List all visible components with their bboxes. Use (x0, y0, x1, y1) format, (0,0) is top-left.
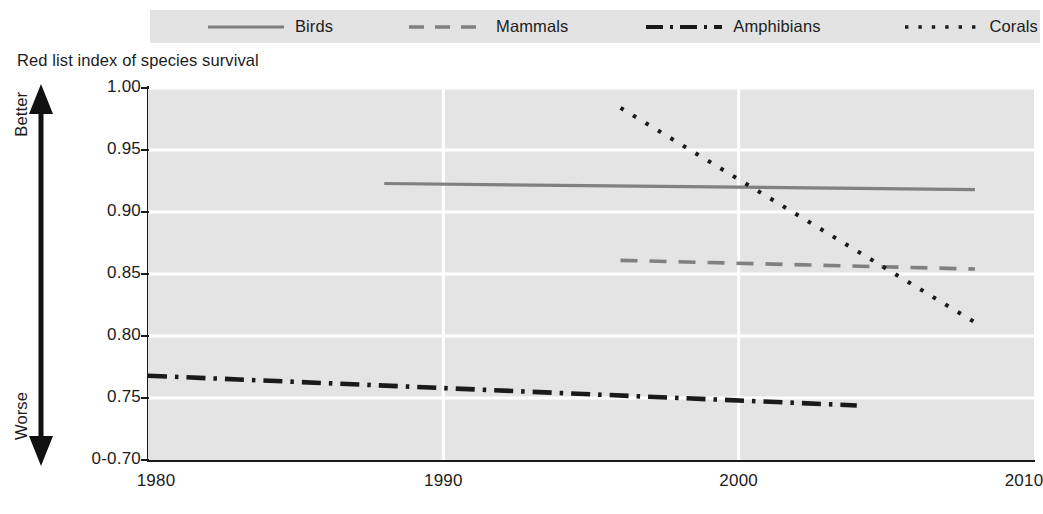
x-tick-label: 2000 (719, 471, 758, 491)
x-tick-label: 1980 (137, 471, 176, 491)
legend-swatch-amphibians-dashdot-icon (646, 19, 722, 35)
y-tick-mark (141, 335, 149, 337)
y-axis-tick-labels: 1.000.950.900.850.800.750-0.70 (55, 0, 141, 514)
legend-swatch-birds-solid-icon (208, 19, 284, 35)
legend-item-amphibians: Amphibians (646, 10, 820, 43)
direction-label-worse: Worse (12, 392, 31, 440)
legend-item-birds: Birds (208, 10, 333, 43)
x-axis-tick-labels: 1980199020002010 (0, 471, 1041, 501)
y-tick-label: 1.00 (55, 77, 141, 97)
chart-plot-svg (148, 88, 1034, 460)
legend-item-mammals: Mammals (409, 10, 568, 43)
y-tick-mark (141, 149, 149, 151)
series-line-corals (621, 108, 975, 323)
legend-label-birds: Birds (295, 17, 333, 36)
y-tick-label: 0.75 (55, 387, 141, 407)
legend-label-mammals: Mammals (496, 17, 568, 36)
y-tick-label: 0.80 (55, 325, 141, 345)
legend-label-amphibians: Amphibians (733, 17, 820, 36)
chart-legend: Birds Mammals Amphibians Corals (150, 10, 1040, 43)
y-tick-mark (141, 459, 149, 461)
x-axis-line (147, 460, 1035, 462)
y-tick-mark (141, 397, 149, 399)
legend-swatch-mammals-dashed-icon (409, 19, 485, 35)
x-tick-label: 2010 (1005, 471, 1043, 491)
direction-label-better: Better (12, 92, 31, 137)
y-tick-label: 0.95 (55, 139, 141, 159)
legend-item-corals: Corals (903, 10, 1038, 43)
series-line-mammals (621, 260, 975, 269)
series-line-birds (384, 183, 975, 189)
y-tick-label: 0.85 (55, 263, 141, 283)
y-tick-mark (141, 273, 149, 275)
legend-swatch-corals-dotted-icon (903, 19, 979, 35)
legend-label-corals: Corals (990, 17, 1038, 36)
y-tick-label: 0-0.70 (55, 449, 141, 469)
y-tick-mark (141, 211, 149, 213)
x-tick-label: 1990 (424, 471, 463, 491)
plot-area (148, 88, 1034, 460)
y-tick-mark (141, 87, 149, 89)
series-line-amphibians (148, 376, 857, 406)
y-tick-label: 0.90 (55, 201, 141, 221)
